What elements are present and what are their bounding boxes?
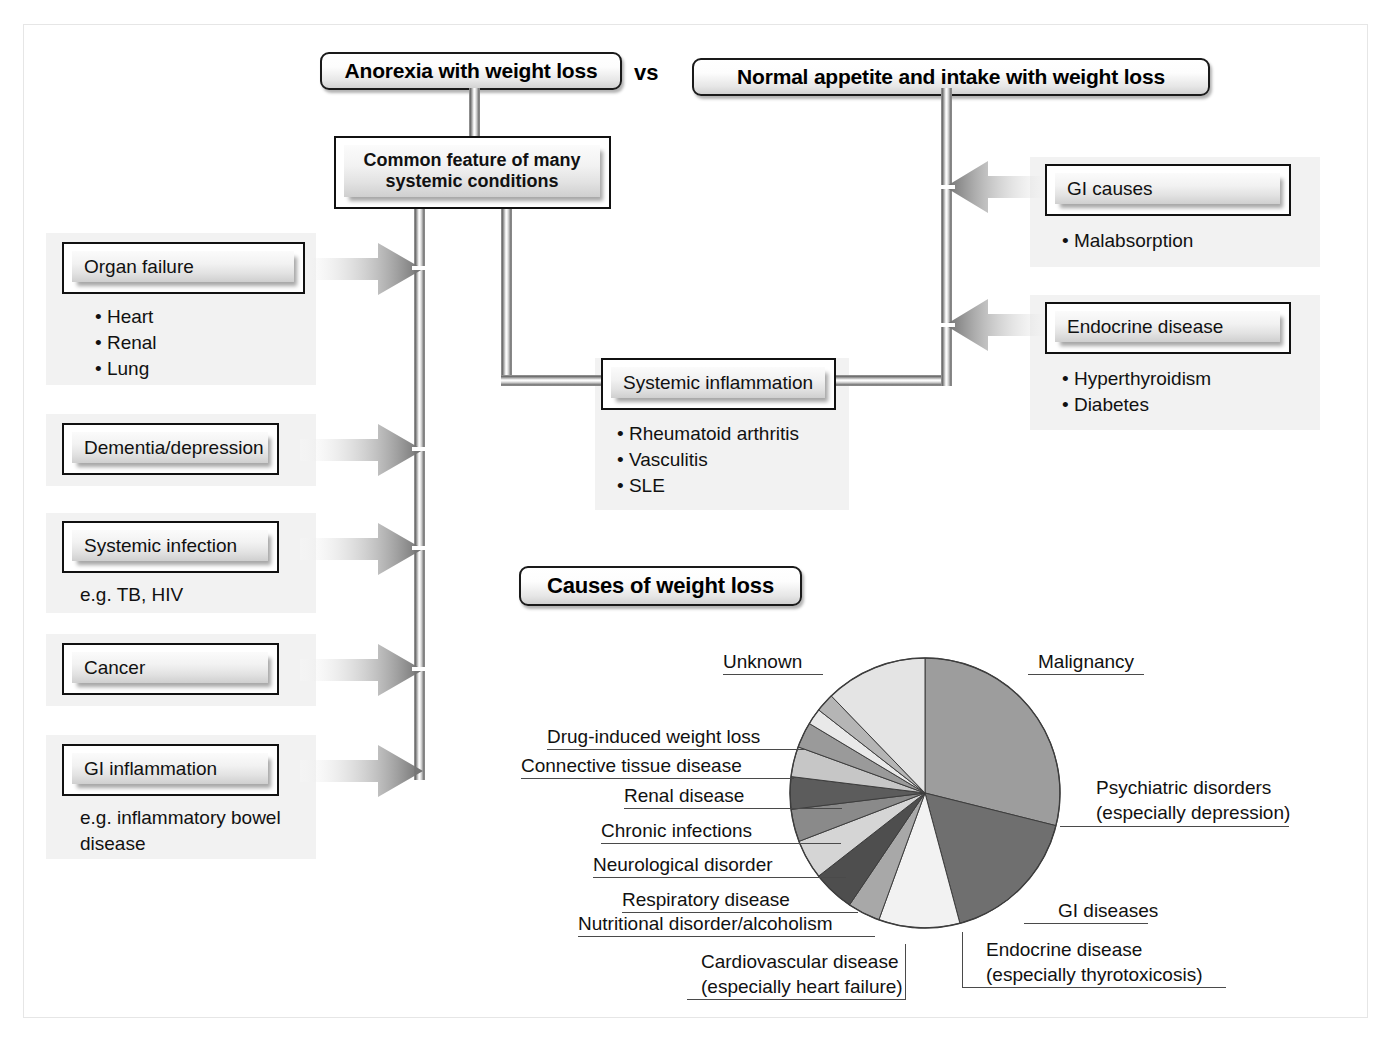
pie-label-gi-diseases: GI diseases (1058, 898, 1158, 923)
pie-chart (770, 638, 1080, 948)
pipe-notch-cancer (412, 667, 428, 671)
arrow-gi-causes (944, 158, 1056, 216)
node-organ-failure-label: Organ failure (84, 256, 194, 278)
bullets-endocrine-disease: • Hyperthyroidism • Diabetes (1062, 366, 1211, 418)
pie-label-text: Drug-induced weight loss (547, 726, 760, 747)
pie-label-text: GI diseases (1058, 900, 1158, 921)
node-gi-causes-label: GI causes (1067, 178, 1153, 200)
pie-leader-endocrine (962, 987, 1226, 988)
node-gi-inflammation[interactable]: GI inflammation (62, 744, 279, 796)
bullet-item: e.g. TB, HIV (80, 582, 183, 608)
arrow-dementia-depression (300, 421, 424, 479)
header-causes-of-weight-loss[interactable]: Causes of weight loss (519, 566, 802, 606)
pie-label-endocrine-disease: Endocrine disease (especially thyrotoxic… (986, 937, 1202, 987)
pie-label-text-sub: (especially thyrotoxicosis) (986, 962, 1202, 987)
pie-label-chronic-infections: Chronic infections (601, 818, 752, 843)
bullets-organ-failure: • Heart • Renal • Lung (95, 304, 157, 382)
pie-leader-gi-diseases (1024, 923, 1148, 924)
connector-center-branch-horizontal (501, 375, 611, 386)
bullets-systemic-inflammation: • Rheumatoid arthritis • Vasculitis • SL… (617, 421, 799, 499)
bullet-item: • Renal (95, 330, 157, 356)
pie-label-connective-tissue-disease: Connective tissue disease (521, 753, 742, 778)
pie-label-text: Unknown (723, 651, 802, 672)
pie-leader-malignancy (1028, 674, 1144, 675)
node-cancer[interactable]: Cancer (62, 643, 279, 695)
node-systemic-inflammation[interactable]: Systemic inflammation (601, 358, 836, 410)
pie-leader-drug-induced (547, 749, 805, 750)
pipe-notch-dementia (412, 447, 428, 451)
pipe-notch-gi-causes (939, 185, 955, 189)
pie-leader-psychiatric (1060, 826, 1289, 827)
bullet-item: • Hyperthyroidism (1062, 366, 1211, 392)
pie-label-nutritional-disorder: Nutritional disorder/alcoholism (578, 911, 833, 936)
node-systemic-infection[interactable]: Systemic infection (62, 521, 279, 573)
pie-label-text-sub: (especially heart failure) (701, 974, 903, 999)
node-dementia-depression-label: Dementia/depression (84, 437, 264, 459)
connector-anorexia-stem (469, 88, 480, 140)
bullet-item: disease (80, 831, 281, 857)
pie-leader-nutritional (578, 936, 875, 937)
pie-label-malignancy: Malignancy (1038, 649, 1134, 674)
connector-inflammation-to-right (830, 375, 947, 386)
node-systemic-infection-label: Systemic infection (84, 535, 237, 557)
pie-label-psychiatric-disorders: Psychiatric disorders (especially depres… (1096, 775, 1290, 825)
bullets-gi-causes: • Malabsorption (1062, 228, 1193, 254)
pie-label-drug-induced-weight-loss: Drug-induced weight loss (547, 724, 760, 749)
bullets-systemic-infection: e.g. TB, HIV (80, 582, 183, 608)
pie-leader-neurological (593, 877, 846, 878)
bullet-item: • Malabsorption (1062, 228, 1193, 254)
pie-leader-renal-disease (624, 808, 842, 809)
bullet-item: • Diabetes (1062, 392, 1211, 418)
connector-normal-appetite-stem (941, 88, 952, 128)
arrow-organ-failure (300, 240, 424, 298)
arrow-endocrine-disease (944, 296, 1056, 354)
node-gi-inflammation-label: GI inflammation (84, 758, 217, 780)
bullet-item: e.g. inflammatory bowel (80, 805, 281, 831)
pie-leader-cardiovascular (687, 999, 906, 1000)
bullet-item: • Lung (95, 356, 157, 382)
arrow-cancer (300, 641, 424, 699)
header-anorexia-label: Anorexia with weight loss (345, 59, 598, 83)
pie-label-text: Nutritional disorder/alcoholism (578, 913, 833, 934)
pie-label-text: Malignancy (1038, 651, 1134, 672)
pie-leader-connective-tissue (521, 778, 794, 779)
pie-label-text: Neurological disorder (593, 854, 773, 875)
common-feature-line1: Common feature of many (363, 150, 580, 171)
pie-leader-endocrine-vertical (962, 932, 963, 988)
connector-center-branch-vertical (501, 207, 512, 386)
pie-label-text: Connective tissue disease (521, 755, 742, 776)
bullet-item: • Vasculitis (617, 447, 799, 473)
node-systemic-inflammation-label: Systemic inflammation (623, 372, 813, 394)
pie-label-text: Respiratory disease (622, 889, 790, 910)
pie-label-neurological-disorder: Neurological disorder (593, 852, 773, 877)
node-gi-causes[interactable]: GI causes (1045, 164, 1291, 216)
pie-label-unknown: Unknown (723, 649, 802, 674)
pie-label-text-sub: (especially depression) (1096, 800, 1290, 825)
node-endocrine-disease-label: Endocrine disease (1067, 316, 1223, 338)
pie-label-cardiovascular-disease: Cardiovascular disease (especially heart… (701, 949, 903, 999)
common-feature-line2: systemic conditions (385, 171, 558, 192)
pipe-notch-organ-failure (412, 266, 428, 270)
header-anorexia-with-weight-loss[interactable]: Anorexia with weight loss (320, 52, 622, 90)
node-dementia-depression[interactable]: Dementia/depression (62, 423, 279, 475)
pie-label-text: Endocrine disease (986, 937, 1202, 962)
node-endocrine-disease[interactable]: Endocrine disease (1045, 302, 1291, 354)
vs-label: vs (634, 60, 658, 86)
pipe-notch-infection (412, 546, 428, 550)
bullet-item: • SLE (617, 473, 799, 499)
node-organ-failure[interactable]: Organ failure (62, 242, 305, 294)
pie-label-respiratory-disease: Respiratory disease (622, 887, 790, 912)
pie-label-text: Chronic infections (601, 820, 752, 841)
pie-label-text: Cardiovascular disease (701, 949, 903, 974)
diagram-canvas: Anorexia with weight loss vs Normal appe… (0, 0, 1394, 1052)
pie-label-text: Renal disease (624, 785, 744, 806)
pie-leader-chronic-infections (601, 843, 841, 844)
pie-label-text: Psychiatric disorders (1096, 775, 1290, 800)
header-normal-appetite-label: Normal appetite and intake with weight l… (737, 65, 1165, 89)
node-cancer-label: Cancer (84, 657, 145, 679)
pipe-notch-endocrine (939, 323, 955, 327)
bullet-item: • Rheumatoid arthritis (617, 421, 799, 447)
pie-leader-cardiovascular-vertical (905, 944, 906, 1000)
header-causes-label: Causes of weight loss (547, 573, 774, 599)
node-common-feature[interactable]: Common feature of many systemic conditio… (334, 136, 611, 209)
